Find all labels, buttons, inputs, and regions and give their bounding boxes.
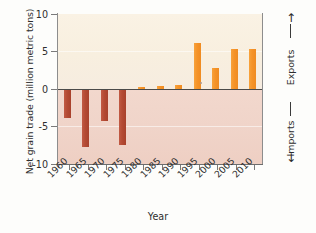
imports-down-arrow-icon: ↓ xyxy=(286,152,295,164)
bar-1960 xyxy=(64,89,71,118)
zero-baseline xyxy=(58,89,262,90)
x-tick-mark xyxy=(254,165,255,170)
y-tick-label-neg10: -10 xyxy=(18,159,48,170)
bar-2010 xyxy=(249,49,256,89)
y-tick-label-neg5: -5 xyxy=(18,121,48,132)
x-tick-label-1960: 1960 xyxy=(45,155,70,180)
chart-figure: Net grain trade (million metric tons) 10… xyxy=(0,0,316,233)
bar-1965 xyxy=(82,89,89,147)
exports-label: Exports xyxy=(285,44,296,92)
exports-arrow-stem xyxy=(290,24,291,38)
y-tick-label-5: 5 xyxy=(18,46,48,57)
bar-2005 xyxy=(231,49,238,89)
speck-artifact xyxy=(200,82,202,84)
y-tick-label-10: 10 xyxy=(18,9,48,20)
y-tick-label-0: 0 xyxy=(18,84,48,95)
x-axis-label: Year xyxy=(0,211,316,222)
bar-1975 xyxy=(119,89,126,145)
plot-area xyxy=(58,14,262,164)
bar-1970 xyxy=(101,89,108,121)
exports-up-arrow-icon: ↑ xyxy=(286,12,295,24)
right-axis-spine xyxy=(262,13,263,165)
bar-2000 xyxy=(212,68,219,89)
